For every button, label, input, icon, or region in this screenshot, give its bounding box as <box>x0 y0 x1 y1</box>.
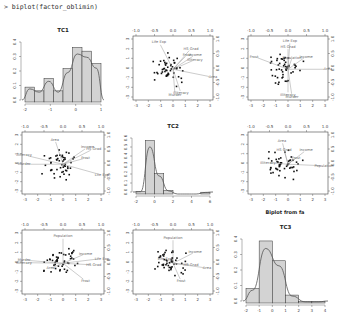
data-point <box>276 60 278 62</box>
data-point <box>41 173 43 175</box>
svg-text:0.5: 0.5 <box>303 124 310 129</box>
data-point <box>68 253 70 255</box>
svg-text:0.0: 0.0 <box>330 159 335 166</box>
data-point <box>169 267 171 269</box>
data-point <box>61 265 63 267</box>
data-point <box>56 159 58 161</box>
data-point <box>286 165 288 167</box>
vector-label: HS Grad <box>277 148 292 152</box>
svg-text:0.5: 0.5 <box>303 28 310 33</box>
data-point <box>185 261 187 263</box>
histogram-bar <box>73 47 83 102</box>
data-point <box>55 268 57 270</box>
data-point <box>292 167 294 169</box>
svg-text:4: 4 <box>190 199 193 204</box>
histogram-title: TC1 <box>57 27 69 33</box>
svg-text:0: 0 <box>74 107 77 112</box>
data-point <box>181 78 183 80</box>
data-point <box>170 269 172 271</box>
svg-text:-1: -1 <box>14 269 19 273</box>
data-point <box>63 166 65 168</box>
data-point <box>55 155 57 157</box>
data-point <box>170 267 172 269</box>
svg-text:0: 0 <box>172 297 175 302</box>
svg-text:0.5: 0.5 <box>79 124 86 129</box>
svg-text:-1: -1 <box>159 297 163 302</box>
svg-text:-1: -1 <box>274 197 278 202</box>
svg-text:2: 2 <box>196 297 199 302</box>
loading-vector <box>160 45 173 69</box>
data-point <box>176 58 178 60</box>
svg-text:0.5: 0.5 <box>215 50 220 57</box>
svg-text:-3: -3 <box>249 103 253 108</box>
svg-text:-3: -3 <box>240 95 245 99</box>
data-point <box>65 170 67 172</box>
svg-text:-1: -1 <box>240 75 245 79</box>
data-point <box>70 258 72 260</box>
svg-text:3: 3 <box>125 37 130 40</box>
svg-text:1.0: 1.0 <box>215 35 220 42</box>
svg-text:3: 3 <box>125 231 130 234</box>
data-point <box>182 267 184 269</box>
svg-text:-1.0: -1.0 <box>330 187 335 195</box>
data-point <box>303 61 305 63</box>
data-point <box>158 262 160 264</box>
svg-text:2: 2 <box>297 308 300 313</box>
svg-text:0.0: 0.0 <box>60 124 67 129</box>
data-point <box>162 69 164 71</box>
data-point <box>294 67 296 69</box>
vector-label: Population <box>54 234 73 238</box>
data-point <box>281 69 283 71</box>
data-point <box>63 159 65 161</box>
data-point <box>167 52 169 54</box>
vector-label: Area <box>203 266 211 270</box>
svg-text:-1.0: -1.0 <box>106 187 111 195</box>
data-point <box>293 179 295 181</box>
data-point <box>165 63 167 65</box>
svg-text:-1.0: -1.0 <box>247 28 255 33</box>
data-point <box>284 168 286 170</box>
svg-text:0.0: 0.0 <box>330 64 335 71</box>
data-point <box>279 164 281 166</box>
svg-text:1.0: 1.0 <box>106 131 111 138</box>
svg-text:-1: -1 <box>240 170 245 174</box>
data-point <box>59 252 61 254</box>
data-point <box>295 65 297 67</box>
data-point <box>74 265 76 267</box>
svg-text:1: 1 <box>284 308 287 313</box>
svg-text:1.0: 1.0 <box>207 28 214 33</box>
svg-text:1: 1 <box>100 107 103 112</box>
data-point <box>185 252 187 254</box>
data-point <box>283 65 285 67</box>
data-point <box>174 275 176 277</box>
loading-vector <box>173 61 193 70</box>
data-point <box>165 69 167 71</box>
svg-text:-3: -3 <box>125 95 130 99</box>
panel-row1-col1: -2-1010.00.10.20.30.4TC1 <box>12 27 104 112</box>
svg-text:0: 0 <box>62 197 65 202</box>
svg-text:-1.0: -1.0 <box>215 93 220 101</box>
svg-text:-3: -3 <box>125 289 130 293</box>
svg-text:1: 1 <box>74 197 77 202</box>
svg-text:0: 0 <box>172 103 175 108</box>
svg-text:2: 2 <box>87 297 90 302</box>
data-point <box>277 169 279 171</box>
data-point <box>173 60 175 62</box>
data-point <box>67 270 69 272</box>
vector-label: HS Grad <box>86 263 101 267</box>
vector-label: Frost <box>177 279 186 283</box>
data-point <box>279 170 281 172</box>
svg-text:-1: -1 <box>14 170 19 174</box>
svg-text:3: 3 <box>14 231 19 234</box>
svg-text:0.5: 0.5 <box>330 145 335 152</box>
data-point <box>178 76 180 78</box>
data-point <box>282 74 284 76</box>
vector-label: Frost <box>81 279 90 283</box>
data-point <box>47 259 49 261</box>
data-point <box>277 77 279 79</box>
svg-text:-1.0: -1.0 <box>330 93 335 101</box>
data-point <box>285 80 287 82</box>
svg-text:1: 1 <box>299 197 302 202</box>
data-point <box>276 69 278 71</box>
data-point <box>292 71 294 73</box>
